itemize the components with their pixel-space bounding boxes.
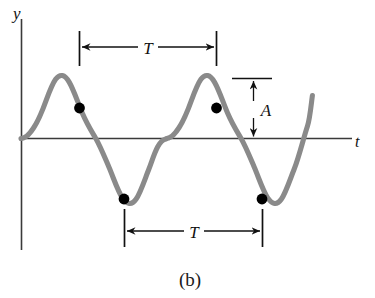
amplitude-label: A [260,101,272,120]
period-bottom-label: T [189,223,200,242]
y-axis-label: y [11,4,21,23]
figure-caption: (b) [179,269,201,291]
marker-dot [257,194,268,205]
figure-canvas: y t T T [0,0,375,298]
marker-dot [119,194,130,205]
figure-background [0,0,375,298]
marker-dot [74,103,85,114]
t-axis-label: t [355,133,360,150]
sine-wave-figure: y t T T [0,0,375,298]
marker-dot [211,103,222,114]
period-top-label: T [143,39,154,58]
